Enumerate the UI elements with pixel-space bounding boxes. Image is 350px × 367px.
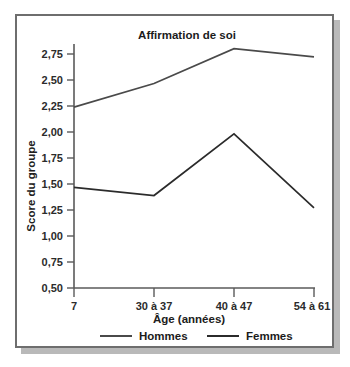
- x-tick-label: 40 à 47: [216, 300, 253, 312]
- y-tick-label: 1,25: [42, 204, 63, 216]
- y-tick-label: 1,75: [42, 152, 63, 164]
- x-axis-label: Âge (années): [153, 313, 225, 325]
- y-tick-label: 0,75: [42, 256, 63, 268]
- y-tick-group: 1,00: [42, 230, 74, 242]
- y-tick-label: 2,25: [42, 100, 63, 112]
- y-tick-group: 1,50: [42, 178, 74, 190]
- y-tick-label: 1,00: [42, 230, 63, 242]
- x-tick-label: 7: [71, 300, 77, 312]
- legend-label-femmes: Femmes: [246, 330, 293, 342]
- x-tick-group: 7: [71, 288, 77, 312]
- y-axis-label: Score du groupe: [25, 140, 37, 231]
- y-tick-group: 2,75: [42, 48, 74, 60]
- figure-root: Affirmation de soi Score du groupe Âge (…: [0, 0, 350, 367]
- legend-label-hommes: Hommes: [139, 330, 188, 342]
- y-tick-group: 2,50: [42, 74, 74, 86]
- y-tick-group: 0,75: [42, 256, 74, 268]
- series-group: [74, 49, 314, 208]
- y-tick-label: 1,50: [42, 178, 63, 190]
- chart-legend: Hommes Femmes: [100, 330, 293, 342]
- x-tick-label: 54 à 61: [294, 300, 331, 312]
- x-tick-group: 40 à 47: [216, 288, 253, 312]
- y-tick-label: 2,75: [42, 48, 63, 60]
- y-tick-group: 2,25: [42, 100, 74, 112]
- x-tick-group: 54 à 61: [294, 288, 331, 312]
- y-tick-label: 2,50: [42, 74, 63, 86]
- y-tick-group: 1,75: [42, 152, 74, 164]
- y-tick-label: 2,00: [42, 126, 63, 138]
- y-tick-group: 0,50: [42, 282, 74, 294]
- y-axis-ticks: 2,75 2,50 2,25 2,00 1,75: [42, 48, 74, 294]
- y-tick-group: 1,25: [42, 204, 74, 216]
- axes: [74, 44, 315, 288]
- x-axis-ticks: 7 30 à 37 40 à 47 54 à 61: [71, 288, 330, 312]
- y-tick-group: 2,00: [42, 126, 74, 138]
- chart-title: Affirmation de soi: [138, 29, 236, 41]
- line-chart: Affirmation de soi Score du groupe Âge (…: [17, 16, 332, 346]
- figure-frame: Affirmation de soi Score du groupe Âge (…: [15, 14, 334, 348]
- x-tick-label: 30 à 37: [136, 300, 173, 312]
- series-line-femmes: [74, 134, 314, 208]
- y-tick-label: 0,50: [42, 282, 63, 294]
- series-line-hommes: [74, 49, 314, 108]
- x-tick-group: 30 à 37: [136, 288, 173, 312]
